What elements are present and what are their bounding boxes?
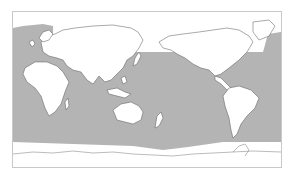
- antarctic-peninsula: [233, 144, 249, 156]
- world-map-frame: [12, 11, 282, 168]
- world-map: [13, 12, 281, 167]
- antarctica-coastline: [13, 151, 281, 156]
